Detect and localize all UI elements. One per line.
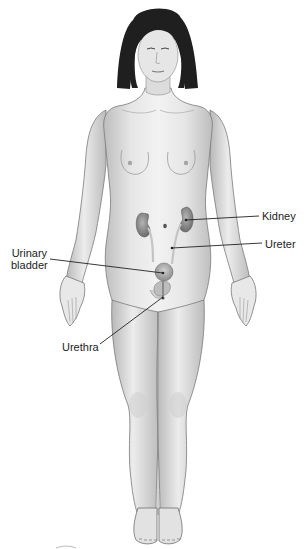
label-ureter: Ureter [265, 238, 296, 250]
label-kidney: Kidney [262, 210, 296, 222]
legs [112, 300, 205, 515]
label-urinary-bladder-line1: Urinary [11, 247, 48, 259]
label-urinary-bladder: Urinary bladder [11, 247, 48, 271]
label-urinary-bladder-line2: bladder [11, 259, 48, 271]
navel [163, 224, 167, 228]
label-urethra: Urethra [62, 341, 99, 353]
anatomy-figure: Kidney Ureter Urinary bladder Urethra [0, 0, 308, 549]
